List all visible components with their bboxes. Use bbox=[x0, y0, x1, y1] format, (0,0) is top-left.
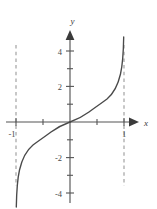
y-tick-label-minus2: -2 bbox=[55, 153, 62, 163]
curve-branch-right bbox=[70, 37, 124, 122]
y-axis-arrowhead bbox=[66, 30, 75, 40]
y-tick-label-2: 2 bbox=[58, 82, 62, 92]
y-tick-label-minus4: -4 bbox=[55, 189, 63, 199]
x-tick-label-minus1: -1 bbox=[8, 129, 15, 139]
y-tick-label-4: 4 bbox=[58, 47, 63, 57]
y-axis-label: y bbox=[70, 16, 75, 26]
x-tick-label-1: 1 bbox=[122, 129, 126, 139]
x-axis-arrowhead bbox=[129, 118, 139, 127]
x-axis-label: x bbox=[143, 118, 148, 128]
graph-canvas: 4 2 -2 -4 -1 1 x y bbox=[0, 0, 157, 209]
graph-figure: 4 2 -2 -4 -1 1 x y bbox=[0, 0, 157, 209]
